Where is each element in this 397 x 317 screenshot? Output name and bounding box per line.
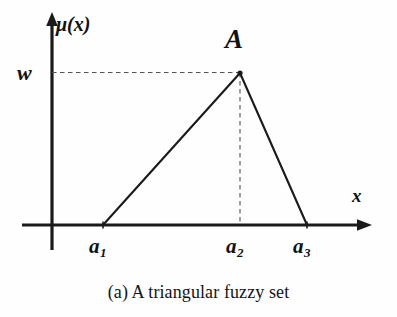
x-tick-label-a1-subscript: 1 <box>100 245 107 260</box>
peak-height-label: w <box>17 62 32 84</box>
figure-container: μ(x) x w A a1 a2 a3 (a) A triangular fuz… <box>0 0 397 317</box>
x-axis-arrow-icon <box>357 219 372 231</box>
apex-point-marker <box>237 70 242 75</box>
x-tick-label-a3: a3 <box>293 236 311 259</box>
x-axis-title: x <box>352 186 362 205</box>
x-tick-label-a1-base: a <box>89 234 100 258</box>
membership-falling-edge <box>240 73 307 225</box>
fuzzy-set-label: A <box>225 26 243 53</box>
figure-caption: (a) A triangular fuzzy set <box>0 282 397 303</box>
x-tick-label-a2: a2 <box>226 236 244 259</box>
x-tick-label-a3-base: a <box>293 234 304 258</box>
x-tick-label-a2-subscript: 2 <box>237 245 244 260</box>
triangular-fuzzy-set-plot <box>0 0 397 317</box>
x-tick-label-a3-subscript: 3 <box>304 245 311 260</box>
x-tick-label-a2-base: a <box>226 234 237 258</box>
x-tick-label-a1: a1 <box>89 236 107 259</box>
y-axis-title: μ(x) <box>56 14 90 34</box>
membership-rising-edge <box>103 73 240 225</box>
